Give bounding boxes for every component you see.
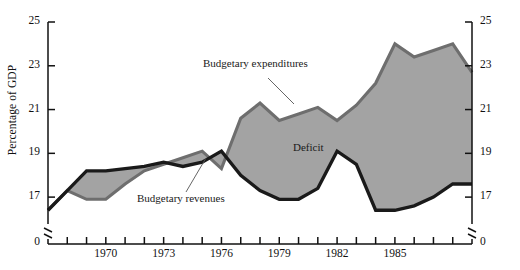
- y-axis-label-left-25: 25: [18, 14, 40, 26]
- chart-root: Percentage of GDP 25 23 21 19 17 0 25 23…: [0, 0, 520, 270]
- y-axis-label-right-23: 23: [480, 58, 502, 70]
- x-axis-label-1976: 1976: [201, 247, 241, 259]
- y-axis-label-left-19: 19: [18, 145, 40, 157]
- x-axis-label-1982: 1982: [317, 247, 357, 259]
- budget-deficit-area-chart: [0, 0, 520, 270]
- y-axis-label-right-17: 17: [480, 189, 502, 201]
- y-axis-label-right-21: 21: [480, 102, 502, 114]
- annotation-budgetary-expenditures: Budgetary expenditures: [203, 57, 308, 69]
- expenditures-leader-line: [268, 78, 294, 104]
- y-axis-label-left-0: 0: [18, 235, 40, 247]
- y-axis-label-right-19: 19: [480, 145, 502, 157]
- y-axis-label-left-21: 21: [18, 102, 40, 114]
- x-axis-label-1979: 1979: [259, 247, 299, 259]
- y-axis-label-left-17: 17: [18, 189, 40, 201]
- x-axis-label-1973: 1973: [144, 247, 184, 259]
- y-axis-break-mark-left-b: [44, 234, 52, 238]
- x-axis-label-1970: 1970: [86, 247, 126, 259]
- annotation-budgetary-revenues: Budgetary revenues: [137, 192, 225, 204]
- annotation-deficit: Deficit: [293, 141, 324, 153]
- y-axis-break-mark-right-b: [468, 234, 476, 238]
- y-axis-break-mark-left-a: [44, 228, 52, 232]
- y-axis-break-mark-right-a: [468, 228, 476, 232]
- y-axis-label-left-23: 23: [18, 58, 40, 70]
- y-axis-label-right-0: 0: [480, 235, 502, 247]
- x-axis-label-1985: 1985: [375, 247, 415, 259]
- y-axis-title: Percentage of GDP: [6, 40, 18, 180]
- y-axis-label-right-25: 25: [480, 14, 502, 26]
